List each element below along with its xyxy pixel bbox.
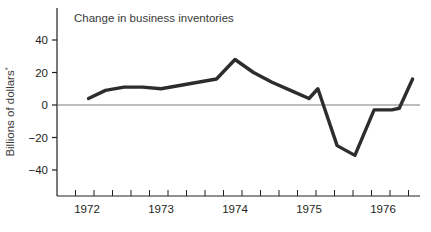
chart-background [0,0,431,232]
x-axis-tick-label: 1972 [74,203,100,215]
y-axis-tick-label: 40 [35,34,48,46]
x-axis-tick-label: 1975 [296,203,322,215]
y-axis-tick-label: 0 [42,99,48,111]
chart-figure: 40200−20−40 19721973197419751976 Change … [0,0,431,232]
chart-title: Change in business inventories [74,12,234,24]
y-axis-title: Billions of dollars* [3,67,17,156]
y-axis-tick-label: −40 [28,164,48,176]
x-axis-tick-label: 1973 [148,203,174,215]
y-axis-title-footnote-marker: * [3,67,12,70]
y-axis-title-group: Billions of dollars* [3,67,17,156]
y-axis-title-text: Billions of dollars [4,70,16,157]
business-inventories-line-chart: 40200−20−40 19721973197419751976 Change … [0,0,431,232]
x-axis-tick-label: 1974 [222,203,248,215]
x-axis-tick-label: 1976 [370,203,396,215]
y-axis-tick-label: −20 [28,132,48,144]
y-axis-tick-label: 20 [35,67,48,79]
